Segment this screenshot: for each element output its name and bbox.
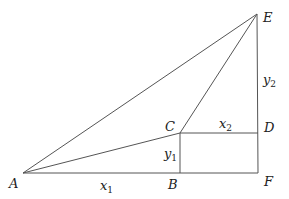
segment-ac (23, 133, 180, 173)
point-label-e: E (262, 10, 273, 25)
point-label-c: C (165, 119, 175, 134)
length-label-y2: y2 (262, 72, 276, 89)
point-labels: A B C D E F (8, 10, 275, 192)
point-label-a: A (8, 176, 18, 191)
length-label-y1: y1 (163, 146, 177, 163)
segment-ef (257, 14, 258, 173)
length-label-x1: x1 (100, 178, 113, 195)
geometry-diagram: A B C D E F x1 x2 y1 y2 (0, 0, 289, 199)
point-label-f: F (263, 174, 274, 189)
length-label-x2: x2 (219, 116, 232, 133)
segment-ae (23, 14, 257, 173)
point-label-b: B (167, 177, 178, 192)
point-label-d: D (263, 120, 275, 135)
segments (23, 14, 258, 173)
